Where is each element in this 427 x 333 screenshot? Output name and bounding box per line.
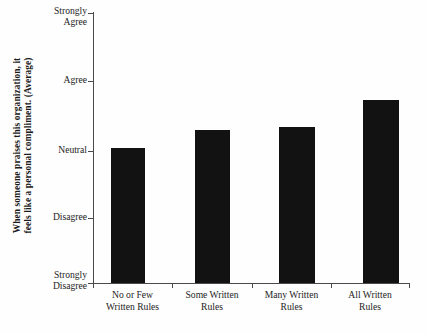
- y-tick-strongly-disagree-l2: Disagree: [35, 281, 87, 292]
- x-category-label-0: No or Few Written Rules: [93, 289, 172, 312]
- y-tick-label-strongly-agree: Strongly Agree: [35, 6, 87, 27]
- y-tick-strongly-agree-l2: Agree: [35, 17, 87, 28]
- y-tick-label-disagree: Disagree: [35, 212, 87, 223]
- y-tick-neutral-l1: Neutral: [58, 144, 87, 155]
- y-tick-label-strongly-disagree: Strongly Disagree: [35, 270, 87, 291]
- x-category-3-l2: Rules: [331, 301, 409, 313]
- bar-many-written-rules: [279, 127, 315, 284]
- x-category-1-l1: Some Written: [186, 289, 239, 300]
- plot-area: [93, 12, 410, 283]
- x-category-0-l2: Written Rules: [93, 301, 172, 313]
- x-category-label-3: All Written Rules: [331, 289, 409, 312]
- x-category-2-l2: Rules: [252, 301, 331, 313]
- y-tick-agree-l1: Agree: [64, 74, 87, 85]
- x-category-2-l1: Many Written: [265, 289, 319, 300]
- y-axis-title-line1: When someone praises this organization, …: [12, 57, 23, 233]
- y-tick-label-agree: Agree: [35, 75, 87, 86]
- y-tick-label-neutral: Neutral: [35, 145, 87, 156]
- x-category-label-2: Many Written Rules: [252, 289, 331, 312]
- x-category-3-l1: All Written: [348, 289, 391, 300]
- y-axis-title-line2: feels like a personal compliment. (Avera…: [23, 57, 34, 233]
- x-category-0-l1: No or Few: [112, 289, 153, 300]
- y-tick-strongly-agree-l1: Strongly: [54, 5, 87, 16]
- bar-some-written-rules: [195, 130, 230, 283]
- bar-chart-figure: feels like a personal compliment. (Avera…: [0, 0, 427, 333]
- x-category-label-1: Some Written Rules: [172, 289, 252, 312]
- x-category-1-l2: Rules: [172, 301, 252, 313]
- y-tick-disagree-l1: Disagree: [53, 211, 87, 222]
- bar-no-or-few-written-rules: [111, 148, 145, 284]
- bar-all-written-rules: [363, 100, 399, 283]
- x-axis-line: [93, 283, 410, 284]
- y-tick-strongly-disagree-l1: Strongly: [54, 269, 87, 280]
